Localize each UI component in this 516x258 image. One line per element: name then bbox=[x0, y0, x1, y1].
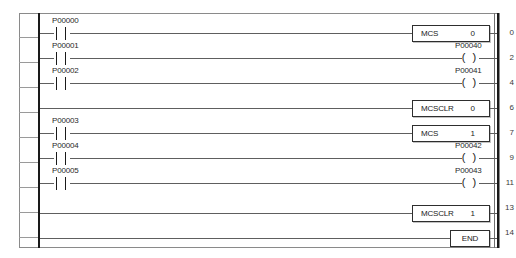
instruction-name: MCSCLR bbox=[421, 209, 454, 219]
contact-label-p00000: P00000 bbox=[52, 16, 78, 25]
gutter-cell bbox=[19, 138, 39, 163]
coil-label-p00041: P00041 bbox=[455, 66, 481, 75]
instruction-operand: 0 bbox=[471, 29, 475, 39]
contact-label-p00002: P00002 bbox=[52, 66, 78, 75]
rung-wire bbox=[479, 58, 497, 59]
contact-bar-left bbox=[56, 127, 57, 140]
rung-wire bbox=[70, 183, 462, 184]
rung-wire bbox=[490, 238, 497, 239]
rung-wire bbox=[479, 183, 497, 184]
instruction-operand: 1 bbox=[471, 129, 475, 139]
rung-number-4: 4 bbox=[510, 78, 514, 87]
rung-number-14: 14 bbox=[505, 228, 514, 237]
ladder-diagram-canvas: 0 2 4 6 7 9 11 13 14 P00000 MCS 0 P00001… bbox=[0, 0, 516, 258]
rung-wire bbox=[40, 213, 412, 214]
gutter-cell bbox=[19, 163, 39, 188]
contact-p00005[interactable] bbox=[52, 177, 70, 190]
gutter-cell bbox=[19, 38, 39, 63]
rung-wire bbox=[479, 83, 497, 84]
gutter-cell bbox=[19, 188, 39, 213]
contact-label-p00005: P00005 bbox=[52, 166, 78, 175]
gutter-cell bbox=[19, 113, 39, 138]
rung-wire bbox=[70, 133, 412, 134]
gutter-cell bbox=[19, 213, 39, 238]
rung-wire bbox=[479, 158, 497, 159]
rung-number-7: 7 bbox=[510, 128, 514, 137]
gutter-cell bbox=[19, 13, 39, 38]
contact-label-p00001: P00001 bbox=[52, 41, 78, 50]
contact-p00004[interactable] bbox=[52, 152, 70, 165]
rung-wire bbox=[70, 158, 462, 159]
contact-bar-left bbox=[56, 52, 57, 65]
rung-wire bbox=[490, 213, 497, 214]
rung-number-9: 9 bbox=[510, 153, 514, 162]
contact-p00000[interactable] bbox=[52, 27, 70, 40]
instruction-block-mcsclr-1[interactable]: MCSCLR 1 bbox=[412, 205, 490, 222]
rung-number-0: 0 bbox=[510, 28, 514, 37]
rung-number-13: 13 bbox=[505, 203, 514, 212]
instruction-block-mcsclr-0[interactable]: MCSCLR 0 bbox=[412, 100, 490, 117]
contact-bar-left bbox=[56, 152, 57, 165]
contact-label-p00004: P00004 bbox=[52, 141, 78, 150]
instruction-operand: 1 bbox=[471, 209, 475, 219]
instruction-name: MCSCLR bbox=[421, 104, 454, 114]
contact-bar-right bbox=[65, 77, 66, 90]
gutter-cell bbox=[19, 63, 39, 88]
contact-p00001[interactable] bbox=[52, 52, 70, 65]
contact-p00003[interactable] bbox=[52, 127, 70, 140]
contact-bar-left bbox=[56, 177, 57, 190]
contact-p00002[interactable] bbox=[52, 77, 70, 90]
coil-p00040[interactable]: ( ) bbox=[461, 51, 479, 64]
coil-p00041[interactable]: ( ) bbox=[461, 76, 479, 89]
rung-wire bbox=[70, 33, 412, 34]
rung-wire bbox=[490, 108, 497, 109]
rung-number-2: 2 bbox=[510, 53, 514, 62]
instruction-block-mcs-0[interactable]: MCS 0 bbox=[412, 25, 490, 42]
rung-number-gutter bbox=[19, 13, 39, 248]
contact-bar-right bbox=[65, 177, 66, 190]
instruction-operand: 0 bbox=[471, 104, 475, 114]
rung-wire bbox=[40, 238, 450, 239]
rung-number-6: 6 bbox=[510, 103, 514, 112]
coil-p00042[interactable]: ( ) bbox=[461, 151, 479, 164]
instruction-block-mcs-1[interactable]: MCS 1 bbox=[412, 125, 490, 142]
instruction-name: END bbox=[451, 234, 489, 244]
rung-number-11: 11 bbox=[506, 178, 514, 187]
rung-wire bbox=[70, 58, 462, 59]
rung-wire bbox=[40, 108, 412, 109]
contact-bar-right bbox=[65, 127, 66, 140]
gutter-cell bbox=[19, 88, 39, 113]
contact-bar-right bbox=[65, 27, 66, 40]
right-power-rail-inner bbox=[497, 13, 499, 248]
coil-p00043[interactable]: ( ) bbox=[461, 176, 479, 189]
coil-label-p00043: P00043 bbox=[455, 166, 481, 175]
contact-bar-right bbox=[65, 52, 66, 65]
rung-wire bbox=[490, 133, 497, 134]
rung-wire bbox=[70, 83, 462, 84]
instruction-name: MCS bbox=[421, 129, 438, 139]
rung-wire bbox=[490, 33, 497, 34]
contact-bar-left bbox=[56, 27, 57, 40]
contact-label-p00003: P00003 bbox=[52, 116, 78, 125]
instruction-name: MCS bbox=[421, 29, 438, 39]
coil-label-p00042: P00042 bbox=[455, 141, 481, 150]
coil-label-p00040: P00040 bbox=[455, 41, 481, 50]
contact-bar-right bbox=[65, 152, 66, 165]
instruction-block-end[interactable]: END bbox=[450, 230, 490, 247]
contact-bar-left bbox=[56, 77, 57, 90]
